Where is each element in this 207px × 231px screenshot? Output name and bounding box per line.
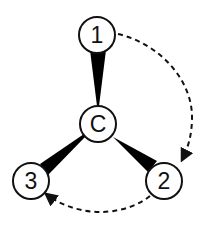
- dashed-arrow-2-to-3: [46, 194, 150, 212]
- atom-label-1: 1: [91, 22, 104, 48]
- atom-node-center: C: [80, 106, 116, 142]
- dashed-arrow-1-to-2: [118, 34, 192, 160]
- wedge-bond-c-to-3: [40, 134, 86, 175]
- wedge-bond-c-to-1: [90, 50, 106, 106]
- wedge-bond-c-to-2: [111, 135, 157, 172]
- atom-label-2: 2: [158, 168, 171, 194]
- atom-node-2: 2: [146, 163, 182, 199]
- atom-node-3: 3: [13, 163, 49, 199]
- stereo-diagram: 1 C 3 2: [0, 0, 207, 231]
- atom-node-1: 1: [79, 17, 115, 53]
- atom-label-3: 3: [25, 168, 38, 194]
- atom-label-center: C: [90, 111, 107, 137]
